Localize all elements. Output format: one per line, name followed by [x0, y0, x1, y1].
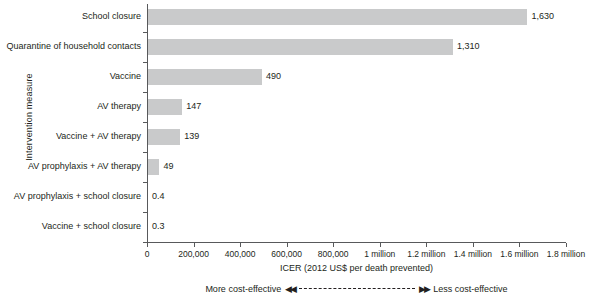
- cost-effectiveness-direction-legend: More cost-effective ◀◀ ▶▶ Less cost-effe…: [147, 282, 566, 296]
- x-axis-tick-label: 1.4 million: [454, 249, 492, 260]
- x-axis-tick: [240, 243, 241, 247]
- bar: [148, 129, 180, 145]
- chart-figure: Intervention measure School closure1,630…: [0, 0, 593, 303]
- x-axis-tick-label: 1.2 million: [407, 249, 445, 260]
- category-label: AV prophylaxis + school closure: [14, 190, 141, 202]
- x-axis-tick: [519, 243, 520, 247]
- less-cost-effective-label: Less cost-effective: [433, 284, 507, 294]
- bar-value-label: 0.3: [152, 220, 165, 232]
- x-axis-tick-label: 600,000: [271, 249, 302, 260]
- more-cost-effective-label: More cost-effective: [205, 284, 281, 294]
- x-axis-line: [147, 242, 566, 243]
- bar: [148, 9, 527, 25]
- bar-row: Vaccine + AV therapy139: [147, 122, 566, 152]
- bar-value-label: 147: [186, 100, 201, 112]
- bar: [148, 99, 182, 115]
- y-axis-title: Intervention measure: [24, 37, 34, 197]
- x-axis-tick-label: 1 million: [364, 249, 395, 260]
- category-label: Vaccine + school closure: [42, 220, 141, 232]
- category-label: School closure: [82, 10, 141, 22]
- bar-row: Vaccine490: [147, 62, 566, 92]
- x-axis-tick-label: 800,000: [318, 249, 349, 260]
- x-axis-tick: [473, 243, 474, 247]
- bar-row: AV prophylaxis + AV therapy49: [147, 152, 566, 182]
- bar-value-label: 1,310: [457, 40, 480, 52]
- left-double-arrow-icon: ◀◀: [285, 285, 295, 294]
- bar: [148, 69, 262, 85]
- category-label: Vaccine + AV therapy: [56, 130, 141, 142]
- x-axis-tick: [194, 243, 195, 247]
- bar-row: Vaccine + school closure0.3: [147, 212, 566, 242]
- category-label: Quarantine of household contacts: [6, 40, 141, 52]
- x-axis-tick-label: 1.6 million: [500, 249, 538, 260]
- dashed-rule: [299, 288, 415, 290]
- x-axis-tick: [566, 243, 567, 247]
- x-axis-tick-label: 400,000: [225, 249, 256, 260]
- bar-value-label: 139: [184, 130, 199, 142]
- bar-value-label: 490: [266, 70, 281, 82]
- x-axis-tick: [333, 243, 334, 247]
- bar-value-label: 1,630: [531, 10, 554, 22]
- bar-row: AV prophylaxis + school closure0.4: [147, 182, 566, 212]
- right-double-arrow-icon: ▶▶: [419, 285, 429, 294]
- category-label: AV prophylaxis + AV therapy: [28, 160, 141, 172]
- bar-row: AV therapy147: [147, 92, 566, 122]
- x-axis-tick-label: 200,000: [178, 249, 209, 260]
- plot-area: School closure1,630Quarantine of househo…: [147, 2, 566, 242]
- bar: [148, 39, 453, 55]
- x-axis-tick-label: 1.8 million: [547, 249, 585, 260]
- bar-value-label: 49: [163, 160, 173, 172]
- category-label: Vaccine: [110, 70, 141, 82]
- x-axis-tick: [147, 243, 148, 247]
- x-axis-tick-label: 0: [145, 249, 150, 260]
- bar-value-label: 0.4: [152, 190, 165, 202]
- category-label: AV therapy: [97, 100, 141, 112]
- x-axis-title: ICER (2012 US$ per death prevented): [147, 263, 566, 273]
- bar-row: Quarantine of household contacts1,310: [147, 32, 566, 62]
- bar: [148, 159, 159, 175]
- x-axis-tick: [380, 243, 381, 247]
- x-axis-tick: [426, 243, 427, 247]
- x-axis-tick: [287, 243, 288, 247]
- bar-row: School closure1,630: [147, 2, 566, 32]
